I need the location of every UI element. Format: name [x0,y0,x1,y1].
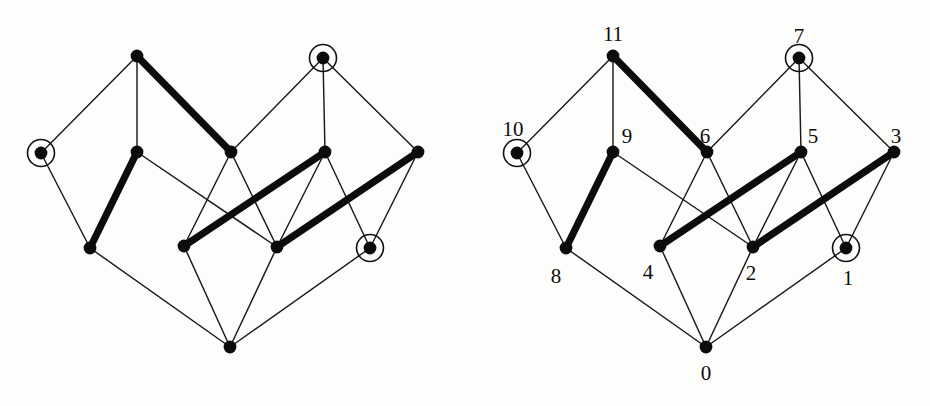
edge-7-6 [231,58,323,152]
node-label-8: 8 [551,266,562,287]
node-dot-1[interactable] [364,242,377,255]
node-dot-0[interactable] [224,341,237,354]
node-dot-9[interactable] [607,146,620,159]
node-dot-4[interactable] [654,240,667,253]
node-dot-5[interactable] [795,146,808,159]
node-dot-6[interactable] [701,146,714,159]
node-label-7: 7 [794,26,805,47]
node-dot-6[interactable] [225,146,238,159]
node-label-1: 1 [843,268,854,289]
node-dot-7[interactable] [317,52,330,65]
node-label-5: 5 [808,126,819,147]
node-dot-5[interactable] [319,146,332,159]
node-label-4: 4 [643,262,654,283]
figure-root: 01234567891011 [0,0,930,406]
node-label-0: 0 [701,363,712,384]
edge-2-0 [230,247,277,347]
edge-4-0 [660,246,706,347]
graph-panel-right [504,45,901,354]
node-dot-3[interactable] [888,146,901,159]
graph-panel-left [28,45,425,354]
edge-11-10 [41,56,137,153]
node-dot-11[interactable] [607,50,620,63]
edge-8-0 [90,248,230,347]
node-label-11: 11 [603,24,623,45]
node-label-9: 9 [622,126,633,147]
node-label-2: 2 [746,263,757,284]
node-label-3: 3 [891,126,902,147]
node-dot-0[interactable] [700,341,713,354]
edge-10-8 [517,153,566,248]
node-dot-4[interactable] [178,240,191,253]
edge-1-0 [230,248,370,347]
edge-7-3 [323,58,418,152]
node-dot-8[interactable] [560,242,573,255]
node-dot-2[interactable] [747,241,760,254]
edge-4-0 [184,246,230,347]
edge-9-8 [566,152,613,248]
node-dot-2[interactable] [271,241,284,254]
node-dot-10[interactable] [35,147,48,160]
node-label-10: 10 [503,119,524,140]
node-dot-9[interactable] [131,146,144,159]
edge-1-0 [706,248,846,347]
node-dot-8[interactable] [84,242,97,255]
edge-7-6 [707,58,799,152]
graph-canvas [0,0,930,406]
node-dot-7[interactable] [793,52,806,65]
node-dot-11[interactable] [131,50,144,63]
node-dot-1[interactable] [840,242,853,255]
node-dot-10[interactable] [511,147,524,160]
edge-11-6 [137,56,231,152]
edge-11-10 [517,56,613,153]
edge-8-0 [566,248,706,347]
edge-10-8 [41,153,90,248]
edge-9-8 [90,152,137,248]
node-dot-3[interactable] [412,146,425,159]
node-label-6: 6 [700,126,711,147]
